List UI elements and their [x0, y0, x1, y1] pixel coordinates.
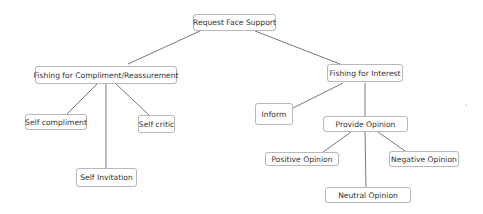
node-self-critic: Self critic — [138, 115, 175, 133]
node-label: Self critic — [139, 120, 174, 129]
decorative-speck — [465, 104, 467, 106]
node-label: Self Invitation — [80, 173, 133, 182]
node-label: Request Face Support — [193, 18, 276, 27]
edge-interest-to-inform — [293, 83, 343, 108]
node-negative-opinion: Negative Opinion — [389, 151, 459, 167]
node-provide-opinion: Provide Opinion — [323, 116, 408, 132]
node-label: Positive Opinion — [272, 155, 333, 164]
tree-diagram: Request Face Support Fishing for Complim… — [0, 0, 483, 214]
edge-provide_opinion-to-negative_opinion — [378, 132, 405, 151]
node-label: Inform — [262, 110, 287, 119]
node-label: Negative Opinion — [391, 155, 457, 164]
edge-layer — [0, 0, 483, 214]
edge-root-to-interest — [255, 31, 340, 64]
node-label: Provide Opinion — [336, 120, 396, 129]
node-label: Self compliment — [25, 118, 87, 127]
node-request-face-support: Request Face Support — [193, 14, 276, 31]
node-fishing-for-interest: Fishing for Interest — [327, 64, 403, 82]
node-label: Fishing for Compliment/Reassurement — [34, 71, 179, 80]
node-fishing-for-compliment: Fishing for Compliment/Reassurement — [35, 66, 177, 84]
node-self-compliment: Self compliment — [25, 114, 87, 130]
edge-root-to-compliment — [128, 31, 200, 64]
edge-compliment-to-self_compliment — [67, 84, 97, 114]
node-neutral-opinion: Neutral Opinion — [325, 187, 411, 203]
node-self-invitation: Self Invitation — [76, 168, 137, 187]
node-label: Fishing for Interest — [330, 69, 401, 78]
node-label: Neutral Opinion — [338, 191, 398, 200]
node-positive-opinion: Positive Opinion — [265, 152, 339, 166]
node-inform: Inform — [255, 103, 293, 125]
edge-provide_opinion-to-positive_opinion — [323, 132, 351, 152]
edge-provide_opinion-to-neutral_opinion — [365, 132, 366, 187]
edge-compliment-to-self_critic — [116, 84, 149, 115]
